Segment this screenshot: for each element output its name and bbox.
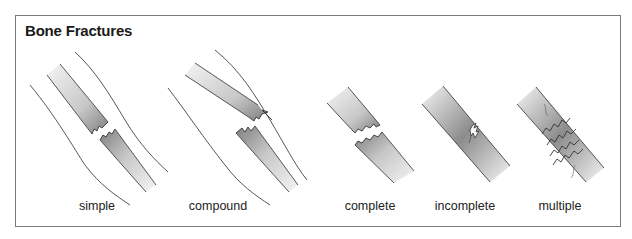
multiple-fracture-illustration	[517, 87, 604, 182]
label-multiple: multiple	[538, 199, 581, 213]
incomplete-fracture-illustration	[422, 86, 510, 182]
label-compound: compound	[189, 199, 247, 213]
complete-fracture-illustration	[327, 87, 414, 183]
label-incomplete: incomplete	[435, 199, 495, 213]
compound-fracture-illustration	[168, 50, 307, 205]
simple-fracture-illustration	[30, 52, 168, 205]
label-simple: simple	[79, 199, 115, 213]
label-complete: complete	[345, 199, 396, 213]
